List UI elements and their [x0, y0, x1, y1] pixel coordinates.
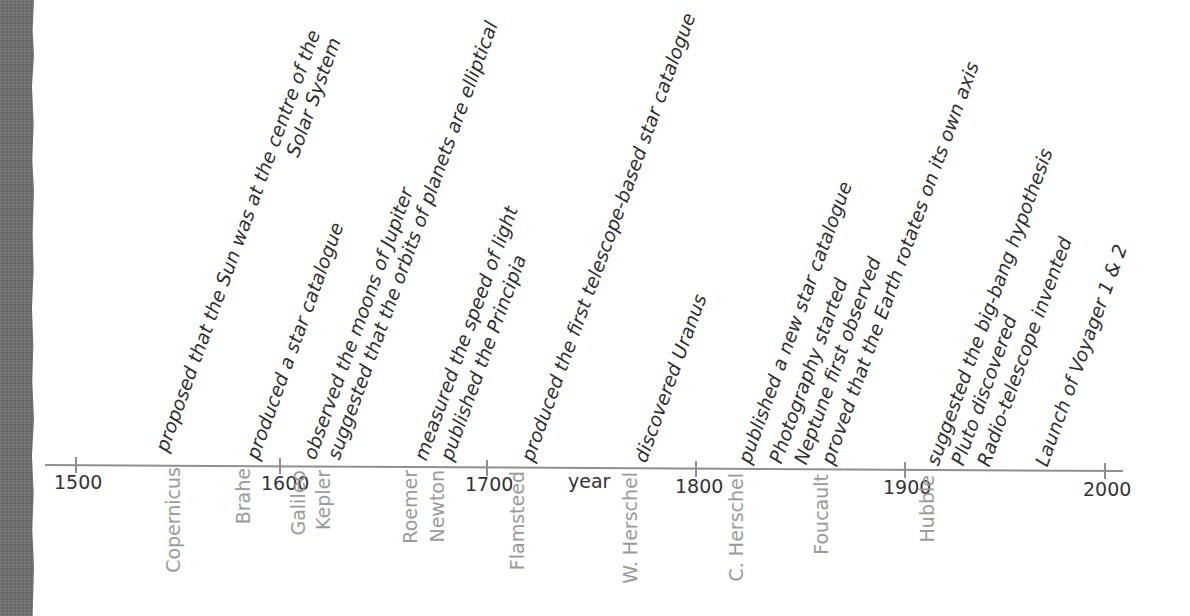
event-description-copernicus: proposed that the Sun was at the centre … — [151, 27, 345, 462]
axis-title-year: year — [568, 472, 610, 491]
tick-label-2000: 2000 — [1083, 480, 1131, 499]
tick-label-1500: 1500 — [54, 473, 102, 492]
scientist-name-galileo: Galileo — [289, 470, 308, 536]
scientist-name-c-herschel: C. Herschel — [726, 473, 745, 582]
scientist-name-brahe: Brahe — [234, 468, 253, 524]
scientist-name-newton: Newton — [428, 470, 447, 543]
event-description-w-herschel: discovered Uranus — [629, 291, 710, 465]
scientist-name-w-herschel: W. Herschel — [621, 472, 640, 584]
scientist-name-roemer: Roemer — [401, 470, 420, 544]
scientist-name-flamsteed: Flamsteed — [508, 471, 527, 570]
scientist-name-foucault: Foucault — [812, 474, 831, 555]
tick-label-1800: 1800 — [675, 477, 723, 496]
scientist-name-kepler: Kepler — [314, 470, 333, 530]
torn-page-edge — [0, 0, 34, 616]
scientist-name-copernicus: Copernicus — [164, 467, 183, 573]
scientist-name-hubble: Hubble — [918, 475, 937, 542]
tick-2000 — [1104, 463, 1106, 479]
event-description-line: proposed that the Sun was at the centre … — [151, 27, 325, 455]
